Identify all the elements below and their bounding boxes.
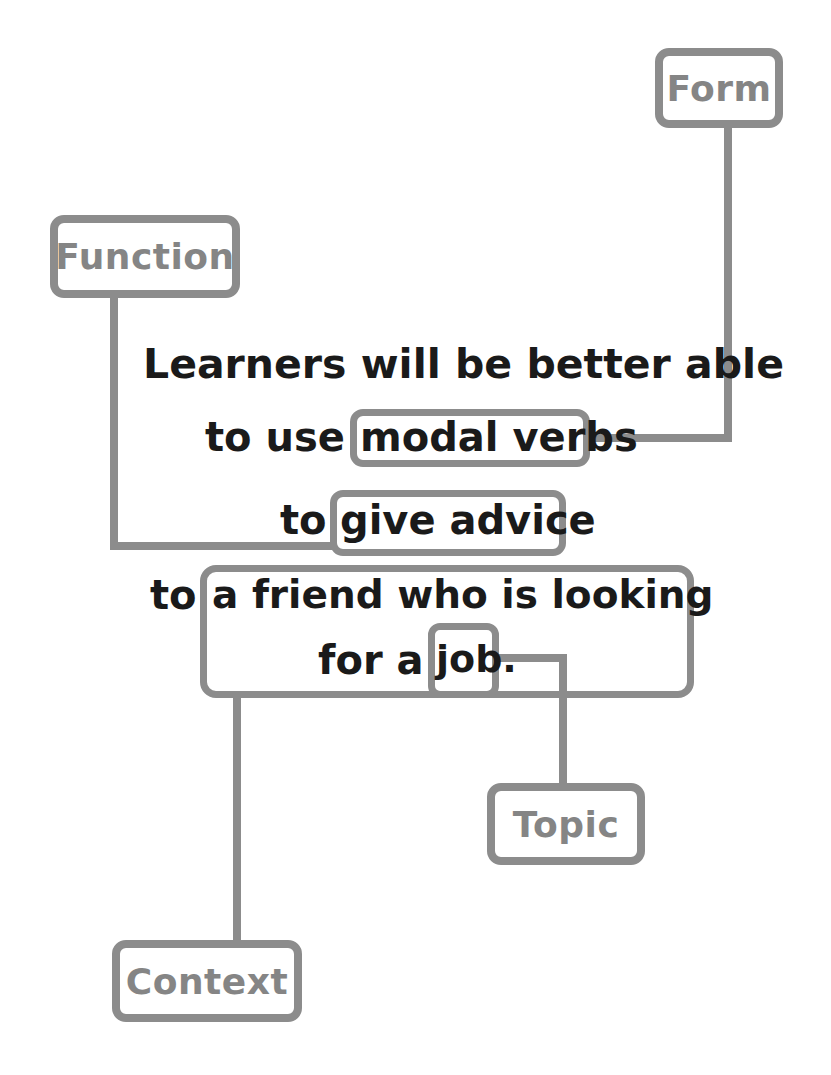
sentence-line-2-highlight: modal verbs: [360, 417, 638, 457]
context-label: Context: [126, 961, 288, 1002]
function-label-box: Function: [50, 215, 240, 298]
topic-label-box: Topic: [487, 783, 645, 865]
sentence-line-2-prefix: to use: [205, 417, 345, 457]
sentence-line-4-highlight: a friend who is looking: [212, 575, 713, 614]
topic-label: Topic: [513, 804, 619, 845]
form-label-box: Form: [655, 48, 783, 128]
form-connector: [588, 126, 728, 438]
sentence-line-5-prefix: for a: [318, 640, 424, 680]
learning-objective-diagram: Form Function Topic Context Learners wil…: [0, 0, 831, 1075]
sentence-line-3-highlight: give advice: [340, 500, 596, 540]
sentence-line-3-prefix: to: [280, 500, 327, 540]
context-label-box: Context: [112, 940, 302, 1022]
form-label: Form: [666, 68, 771, 109]
sentence-line-5-highlight: job.: [436, 640, 517, 678]
function-label: Function: [55, 236, 234, 277]
sentence-line-4-prefix: to: [150, 575, 197, 615]
sentence-line-1: Learners will be better able: [143, 344, 784, 385]
